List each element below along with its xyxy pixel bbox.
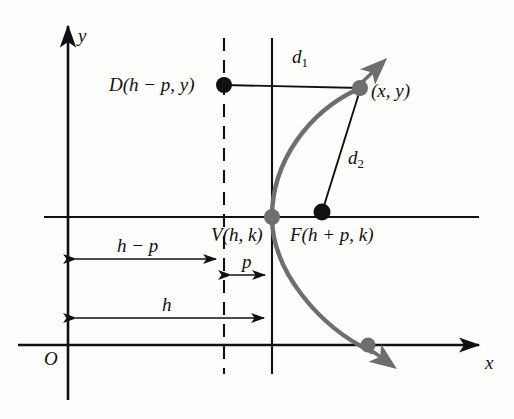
parabola-point-label: (x, y) bbox=[371, 81, 410, 100]
directrix-point-label: D(h − p, y) bbox=[109, 75, 195, 94]
y-axis-label: y bbox=[78, 26, 86, 45]
focus-label: F(h + p, k) bbox=[290, 225, 374, 244]
d1-label-base: d bbox=[292, 46, 302, 67]
parabola-curve-group bbox=[272, 64, 390, 364]
dimension-p-label: p bbox=[242, 252, 252, 271]
curve-x-crossing-dot bbox=[361, 338, 376, 353]
parabola-curve-upper bbox=[272, 90, 356, 217]
d2-label: d2 bbox=[348, 148, 364, 171]
focus-dot bbox=[314, 204, 331, 221]
d1-segment bbox=[224, 85, 361, 88]
dimension-lines-group bbox=[68, 248, 265, 330]
vertex-dot bbox=[264, 209, 280, 225]
d2-label-base: d bbox=[348, 147, 358, 168]
d2-label-subscript: 2 bbox=[358, 156, 364, 171]
dimension-h-label: h bbox=[162, 295, 172, 314]
d1-label-subscript: 1 bbox=[302, 55, 308, 70]
parabola-diagram: y x O D(h − p, y) (x, y) V(h, k) F(h + p… bbox=[0, 0, 514, 419]
vertex-label: V(h, k) bbox=[211, 225, 263, 244]
x-axis-label: x bbox=[485, 353, 493, 372]
dimension-h-minus-p-label: h − p bbox=[117, 236, 158, 255]
parabola-point-dot bbox=[352, 80, 368, 96]
origin-label: O bbox=[44, 349, 58, 368]
directrix-point-dot bbox=[216, 77, 232, 93]
d1-label: d1 bbox=[292, 47, 308, 70]
diagram-canvas bbox=[0, 0, 514, 419]
